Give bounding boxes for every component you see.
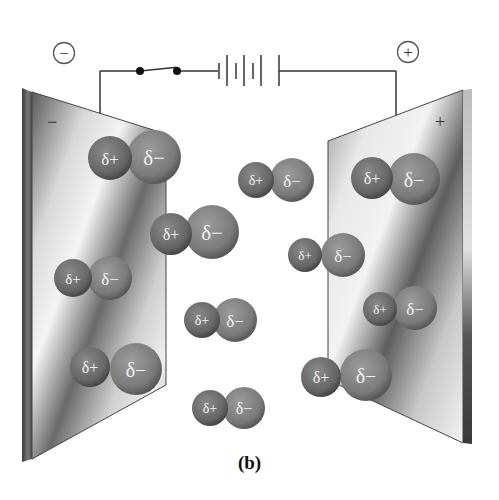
- switch-contact-right: [173, 67, 181, 75]
- dipole-molecule: δ−δ+: [288, 233, 365, 277]
- partial-negative-label: δ−: [226, 312, 244, 331]
- circuit: [100, 67, 396, 115]
- partial-positive-label: δ+: [313, 369, 330, 386]
- partial-negative-label: δ−: [283, 172, 301, 191]
- partial-positive-label: δ+: [203, 401, 218, 416]
- partial-negative-label: δ−: [404, 169, 425, 191]
- partial-positive-label: δ+: [101, 150, 119, 169]
- partial-positive-label: δ+: [364, 170, 381, 187]
- switch-arm: [140, 67, 177, 71]
- dipole-molecule: δ−δ+: [238, 158, 314, 202]
- dipole-molecule: δ−δ+: [184, 298, 257, 342]
- partial-negative-label: δ−: [101, 270, 119, 289]
- svg-text:+: +: [403, 43, 413, 62]
- figure-caption: (b): [0, 452, 499, 474]
- dipole-molecule: δ−δ+: [351, 153, 440, 205]
- battery-icon: [219, 55, 279, 86]
- right-plate-sign: +: [435, 112, 445, 132]
- partial-negative-label: δ−: [406, 300, 424, 319]
- partial-negative-label: δ−: [236, 400, 253, 417]
- partial-negative-label: δ−: [356, 365, 377, 387]
- right-plate-edge: [463, 89, 472, 444]
- switch-contact-left: [136, 67, 144, 75]
- svg-text:−: −: [59, 44, 69, 63]
- capacitor-dielectric-diagram: − + − + δ−δ+δ−δ+δ−δ+δ−δ+δ−δ+δ−δ+δ−δ+δ−δ+…: [0, 0, 499, 500]
- partial-positive-label: δ+: [373, 302, 386, 317]
- negative-terminal-icon: −: [54, 43, 75, 64]
- partial-positive-label: δ+: [249, 173, 264, 188]
- partial-negative-label: δ−: [334, 247, 352, 266]
- partial-negative-label: δ−: [143, 146, 165, 170]
- partial-negative-label: δ−: [201, 221, 223, 245]
- positive-terminal-icon: +: [398, 42, 419, 63]
- left-plate-edge: [22, 88, 32, 462]
- partial-positive-label: δ+: [65, 271, 81, 287]
- partial-positive-label: δ+: [82, 359, 99, 376]
- dipole-molecule: δ−δ+: [192, 387, 265, 429]
- left-plate-sign: −: [47, 112, 57, 132]
- partial-negative-label: δ−: [126, 359, 147, 381]
- partial-positive-label: δ+: [163, 226, 180, 243]
- partial-positive-label: δ+: [298, 248, 311, 263]
- partial-positive-label: δ+: [195, 313, 210, 328]
